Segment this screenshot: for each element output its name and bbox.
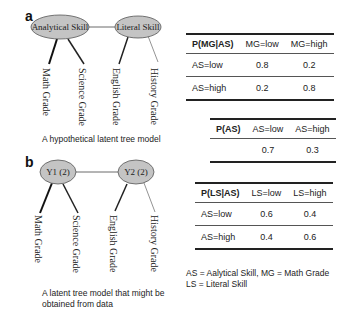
panel-a-caption: A hypothetical latent tree model [42, 134, 161, 145]
svg-text:Math Grade: Math Grade [33, 215, 44, 264]
legend-line-2: LS = Literal Skill [186, 279, 329, 290]
table-p-mg-given-as: P(MG|AS) MG=low MG=high AS=low 0.8 0.2 A… [186, 33, 334, 101]
svg-text:English Grade: English Grade [108, 215, 119, 273]
panel-b-caption-line2: obtained from data [42, 299, 164, 310]
panel-b-caption-line1: A latent tree model that might be [42, 288, 164, 299]
svg-text:History Grade: History Grade [149, 215, 160, 272]
table-header-row: P(AS) AS=low AS=high [210, 119, 336, 139]
svg-text:Y2 (2): Y2 (2) [124, 167, 148, 177]
svg-text:English Grade: English Grade [111, 68, 122, 126]
table-row: AS=low 0.8 0.2 [186, 54, 334, 77]
table-row: AS=low 0.6 0.4 [195, 203, 333, 226]
table-p-as: P(AS) AS=low AS=high 0.7 0.3 [210, 118, 336, 163]
table-header-row: P(LS|AS) LS=low LS=high [195, 183, 333, 203]
latent-tree-diagram-a: Analytical Skill Literal Skill Math Grad… [0, 0, 180, 135]
table-row: AS=high 0.4 0.6 [195, 226, 333, 250]
svg-text:History Grade: History Grade [149, 68, 160, 125]
legend-line-1: AS = Aalytical Skill, MG = Math Grade [186, 268, 329, 279]
table-row: AS=high 0.2 0.8 [186, 77, 334, 101]
svg-text:Science Grade: Science Grade [71, 215, 82, 274]
svg-text:Literal Skill: Literal Skill [116, 22, 160, 32]
panel-b-caption: A latent tree model that might be obtain… [42, 288, 164, 310]
svg-text:Analytical Skill: Analytical Skill [32, 22, 89, 32]
latent-tree-diagram-b: Y1 (2) Y2 (2) Math Grade Science Grade E… [0, 155, 180, 285]
svg-text:Y1 (2): Y1 (2) [46, 167, 70, 177]
table-row: 0.7 0.3 [210, 139, 336, 163]
abbreviation-legend: AS = Aalytical Skill, MG = Math Grade LS… [186, 268, 329, 290]
svg-text:Science Grade: Science Grade [77, 68, 88, 127]
table-p-ls-given-as: P(LS|AS) LS=low LS=high AS=low 0.6 0.4 A… [195, 182, 333, 250]
table-header-row: P(MG|AS) MG=low MG=high [186, 34, 334, 54]
svg-text:Math Grade: Math Grade [41, 68, 52, 117]
